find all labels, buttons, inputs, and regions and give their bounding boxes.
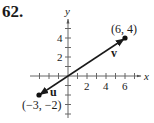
point-label-neg3-neg2: (−3, −2) xyxy=(22,98,62,112)
y-axis-label: y xyxy=(64,5,70,17)
y-tick-label-4: 4 xyxy=(57,32,63,44)
x-tick-label-4: 4 xyxy=(103,80,109,92)
x-axis-label: x xyxy=(143,70,149,82)
vector-plot: x y 2 4 6 4 2 (6, 4) (−3, −2) v u xyxy=(0,0,154,123)
point-label-6-4: (6, 4) xyxy=(111,22,137,36)
point-neg3-neg2 xyxy=(36,92,41,97)
x-tick-label-2: 2 xyxy=(84,80,90,92)
y-axis xyxy=(65,19,71,118)
vector-label-v: v xyxy=(111,46,117,60)
point-6-4 xyxy=(122,35,127,40)
y-tick-label-2: 2 xyxy=(57,51,63,63)
x-tick-label-6: 6 xyxy=(122,80,128,92)
vector-label-u: u xyxy=(50,85,57,99)
x-axis xyxy=(30,73,141,79)
